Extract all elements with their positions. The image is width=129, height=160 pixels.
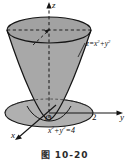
figure-container: z y x O 2 z=x2+y2 x2+y2=4 图 10-20: [0, 0, 129, 160]
surface-eq-sup2: 2: [108, 39, 110, 44]
y-axis-label: y: [120, 113, 124, 122]
origin-label: O: [45, 114, 52, 123]
figure-caption: 图 10-20: [0, 148, 129, 160]
circle-equation-label: x2+y2=4: [48, 127, 75, 135]
surface-eq-base: z=x: [86, 39, 97, 48]
x-axis-label: x: [11, 131, 15, 140]
paraboloid-diagram: [0, 0, 129, 160]
surface-eq-mid: +y: [100, 39, 108, 48]
circle-eq-end: =4: [65, 126, 74, 135]
circle-eq-mid: +y: [54, 126, 63, 135]
y-axis-tick-label-2: 2: [92, 113, 97, 122]
z-axis-label: z: [52, 1, 56, 10]
surface-equation-label: z=x2+y2: [86, 40, 110, 48]
z-axis-arrowhead: [46, 2, 51, 9]
